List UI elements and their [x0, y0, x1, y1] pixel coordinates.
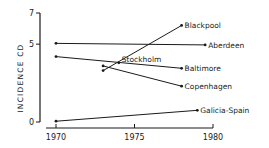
chart: 057197019751980 BlackpoolAberdeenStockho…: [0, 0, 269, 148]
point-blackpool: [102, 69, 105, 72]
y-tick-label: 7: [29, 9, 34, 18]
label-stockholm: Stockholm: [122, 55, 162, 64]
y-tick-label: 5: [29, 40, 34, 49]
point-copenhagen: [180, 85, 183, 88]
line-aberdeen: [56, 43, 205, 45]
label-copenhagen: Copenhagen: [185, 82, 233, 91]
x-tick-label: 1970: [46, 133, 66, 142]
series-labels: BlackpoolAberdeenStockholmBaltimoreCopen…: [122, 21, 250, 115]
point-aberdeen: [204, 44, 207, 47]
x-tick-label: 1975: [124, 133, 144, 142]
label-baltimore: Baltimore: [185, 64, 222, 73]
point-galicia-spain: [196, 109, 199, 112]
y-tick-label: 0: [29, 118, 34, 127]
point-copenhagen: [102, 65, 105, 68]
x-tick-label: 1980: [203, 133, 223, 142]
point-blackpool: [180, 24, 183, 27]
point-baltimore: [55, 55, 58, 58]
series-lines: [55, 24, 207, 123]
point-baltimore: [180, 67, 183, 70]
y-axis-label: INCIDENCE CD: [16, 43, 25, 112]
line-galicia-spain: [56, 110, 197, 121]
line-copenhagen: [103, 66, 182, 86]
point-aberdeen: [55, 42, 58, 45]
label-aberdeen: Aberdeen: [208, 41, 244, 50]
point-galicia-spain: [55, 120, 58, 123]
line-baltimore: [56, 57, 182, 69]
label-galicia-spain: Galicia-Spain: [200, 106, 249, 115]
label-blackpool: Blackpool: [185, 21, 221, 30]
